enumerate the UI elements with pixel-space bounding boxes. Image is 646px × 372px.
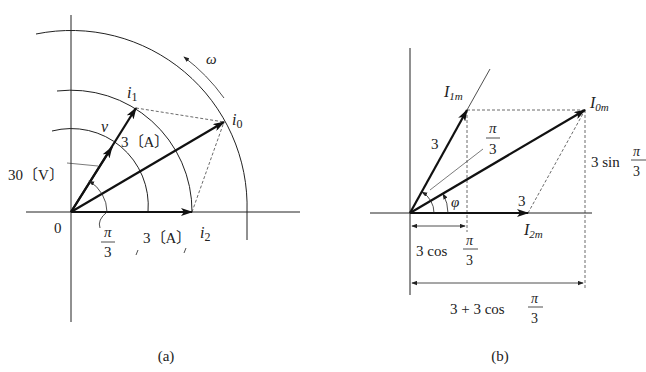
vector-i0m <box>410 110 585 213</box>
short-horizontal-den: 3 <box>466 253 473 268</box>
figure-b: I1m I0m I2m 3 3 π 3 φ 3 sin π 3 3 cos π … <box>370 48 646 365</box>
long-horizontal-num: π <box>531 291 539 306</box>
short-horizontal-num: π <box>466 233 474 248</box>
short-horizontal-prefix: 3 cos <box>416 243 447 259</box>
long-horizontal-den: 3 <box>531 311 538 326</box>
figure-a: ω i1 i0 i2 v 3〔A〕 30〔V〕 3〔A〕 0 π 3 (a) <box>8 15 300 365</box>
tick-mark-1 <box>136 250 138 255</box>
v-label: v <box>101 118 109 135</box>
v-magnitude-label: 30〔V〕 <box>8 167 64 183</box>
omega-rotation-arrow <box>184 57 224 98</box>
angle-den-b: 3 <box>489 141 497 157</box>
arc-current-3A <box>57 90 192 212</box>
i1m-magnitude-label: 3 <box>431 136 439 152</box>
i2m-magnitude-label: 3 <box>518 193 526 209</box>
phasor-diagrams: ω i1 i0 i2 v 3〔A〕 30〔V〕 3〔A〕 0 π 3 (a) <box>0 0 646 372</box>
i1m-label: I1m <box>443 83 463 102</box>
dashed-i1-i0 <box>136 108 224 122</box>
origin-label-a: 0 <box>54 220 62 236</box>
angle-arc-phi <box>443 194 448 213</box>
vertical-component-num: π <box>633 144 641 159</box>
dashed-i2m-i0m <box>528 110 585 213</box>
caption-b: (b) <box>491 348 509 365</box>
i2m-label: I2m <box>523 221 543 240</box>
i0m-label: I0m <box>589 94 609 113</box>
leader-pi3-b <box>430 149 483 190</box>
omega-label: ω <box>206 51 217 67</box>
phi-label: φ <box>451 194 459 210</box>
leader-30v <box>67 163 98 166</box>
i1-label: i1 <box>127 84 137 104</box>
i2-magnitude-label: 3〔A〕 <box>143 230 191 246</box>
long-horizontal-prefix: 3 + 3 cos <box>450 301 505 317</box>
angle-den-a: 3 <box>104 244 112 260</box>
i1-magnitude-label: 3〔A〕 <box>121 134 169 150</box>
i1m-extension <box>467 69 490 110</box>
tick-mark-2 <box>184 248 186 253</box>
i0-label: i0 <box>232 111 242 131</box>
caption-a: (a) <box>158 348 175 365</box>
vertical-component-den: 3 <box>633 164 640 179</box>
angle-pi-a: π <box>104 224 112 240</box>
i2-label: i2 <box>200 224 210 244</box>
dashed-i2-i0 <box>192 122 224 212</box>
vertical-component-prefix: 3 sin <box>591 154 620 170</box>
angle-pi-b: π <box>489 120 497 136</box>
